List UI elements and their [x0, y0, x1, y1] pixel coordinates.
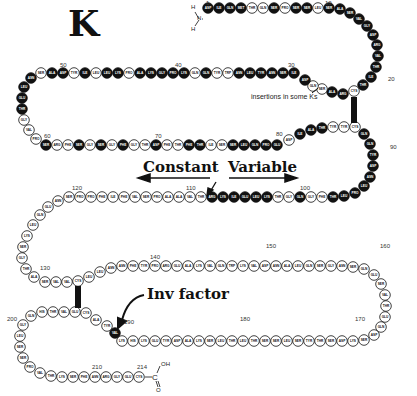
- residue-136: LEU: [95, 267, 106, 278]
- svg-text:VAL: VAL: [26, 128, 32, 132]
- svg-text:SER: SER: [293, 6, 300, 10]
- svg-text:ALA: ALA: [137, 71, 144, 75]
- svg-text:SER: SER: [38, 71, 45, 75]
- svg-text:LEU: LEU: [240, 339, 247, 343]
- amino-acid-chain: ASPILEGLNMETTHRGLNSERPROSERSERLEUSERALAS…: [15, 3, 392, 383]
- residue-66: GLY: [107, 140, 118, 151]
- residue-4: MET: [236, 3, 247, 14]
- residue-104: LEU: [251, 192, 262, 203]
- residue-36: TYR: [212, 68, 223, 79]
- svg-text:SER: SER: [230, 143, 237, 147]
- residue-126: LYS: [22, 231, 33, 242]
- svg-text:PHE: PHE: [319, 195, 326, 199]
- residue-50: ASP: [58, 68, 69, 79]
- svg-text:GLY: GLY: [19, 256, 26, 260]
- residue-7: SER: [269, 3, 280, 14]
- svg-text:THR: THR: [142, 143, 149, 147]
- residue-118: PHE: [97, 192, 108, 203]
- svg-text:ASN: ASN: [339, 264, 346, 268]
- svg-text:VAL: VAL: [53, 280, 59, 284]
- c-terminus-c: C: [152, 373, 158, 382]
- svg-text:CYS: CYS: [351, 89, 358, 93]
- position-30: 30: [288, 62, 295, 68]
- svg-text:TRP: TRP: [225, 71, 232, 75]
- residue-133: VAL: [62, 277, 73, 288]
- residue-162: SER: [376, 279, 387, 290]
- position-120: 120: [72, 185, 82, 191]
- svg-text:ASN: ASN: [236, 71, 243, 75]
- svg-text:PRO: PRO: [33, 137, 40, 141]
- svg-text:SER: SER: [347, 11, 354, 15]
- svg-text:PRO: PRO: [154, 195, 161, 199]
- svg-text:GLN: GLN: [361, 132, 368, 136]
- residue-51: ALA: [47, 68, 58, 79]
- residue-48: ILE: [80, 68, 91, 79]
- svg-text:PRO: PRO: [263, 143, 270, 147]
- svg-text:LYS: LYS: [141, 339, 147, 343]
- svg-text:VAL: VAL: [251, 264, 257, 268]
- residue-55: GLU: [17, 93, 28, 104]
- svg-text:SER: SER: [70, 375, 77, 379]
- svg-text:TYR: TYR: [306, 339, 313, 343]
- svg-text:PHE: PHE: [186, 143, 193, 147]
- residue-99: GLY: [306, 192, 317, 203]
- residue-207: LYS: [57, 372, 68, 383]
- svg-text:PRO: PRO: [88, 195, 95, 199]
- svg-text:VAL: VAL: [37, 371, 43, 375]
- residue-182: SER: [205, 336, 216, 347]
- residue-120: PRO: [75, 192, 86, 203]
- svg-text:ILE: ILE: [298, 132, 303, 136]
- svg-text:THR: THR: [330, 195, 337, 199]
- svg-text:GLN: GLN: [306, 264, 313, 268]
- svg-text:ASP: ASP: [205, 6, 212, 10]
- residue-121: SER: [64, 192, 75, 203]
- svg-text:GLN: GLN: [37, 213, 44, 217]
- svg-text:GLY: GLY: [159, 71, 166, 75]
- svg-text:ALA: ALA: [185, 339, 192, 343]
- residue-23: CYS: [349, 86, 360, 97]
- svg-text:ASP: ASP: [370, 164, 377, 168]
- residue-101: GLY: [284, 192, 295, 203]
- c-terminus-oh: OH: [161, 361, 170, 367]
- svg-text:LEU: LEU: [295, 264, 302, 268]
- residue-74: THR: [195, 140, 206, 151]
- residue-95: PRO: [350, 188, 361, 199]
- residue-107: LYS: [218, 192, 229, 203]
- position-20: 20: [388, 76, 395, 82]
- svg-text:SER: SER: [143, 195, 150, 199]
- residue-181: LEU: [216, 336, 227, 347]
- residue-128: GLY: [17, 253, 28, 264]
- svg-text:PHE: PHE: [130, 264, 137, 268]
- residue-212: GLY: [112, 372, 123, 383]
- svg-text:GLN: GLN: [192, 71, 199, 75]
- svg-text:TYR: TYR: [258, 71, 265, 75]
- svg-text:TYR: TYR: [141, 264, 148, 268]
- residue-2: ILE: [214, 3, 225, 14]
- svg-text:SER: SER: [361, 338, 368, 342]
- residue-88: CYS: [350, 122, 361, 133]
- residue-214: CYS: [134, 372, 145, 383]
- svg-text:GLU: GLU: [45, 205, 52, 209]
- svg-text:LYS: LYS: [148, 71, 154, 75]
- svg-text:GLN: GLN: [252, 143, 259, 147]
- svg-text:GLU: GLU: [152, 339, 159, 343]
- residue-161: GLU: [369, 270, 380, 281]
- svg-text:GLN: GLN: [378, 325, 385, 329]
- svg-text:LYS: LYS: [264, 195, 270, 199]
- svg-text:THR: THR: [249, 6, 256, 10]
- residue-156: SER: [315, 261, 326, 272]
- svg-text:ALA: ALA: [308, 128, 315, 132]
- position-110: 110: [186, 185, 196, 191]
- residue-153: ALA: [282, 261, 293, 272]
- svg-text:SER: SER: [20, 245, 27, 249]
- residue-111: ALA: [174, 192, 185, 203]
- svg-text:ALA: ALA: [337, 7, 344, 11]
- svg-text:VAL: VAL: [375, 54, 381, 58]
- svg-text:SER: SER: [304, 6, 311, 10]
- svg-text:ALA: ALA: [185, 264, 192, 268]
- svg-text:HIS: HIS: [130, 339, 135, 343]
- svg-text:LEU: LEU: [104, 71, 111, 75]
- residue-124: GLN: [35, 210, 46, 221]
- svg-text:GLN: GLN: [260, 6, 267, 10]
- residue-73: PHE: [184, 140, 195, 151]
